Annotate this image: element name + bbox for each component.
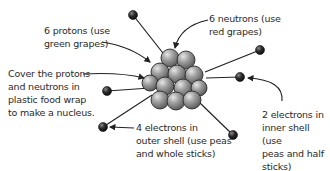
label-protons: 6 protons (use green grapes) [44,24,110,50]
nucleus [142,49,207,110]
label-neutrons: 6 neutrons (use red grapes) [209,12,281,38]
label-nucleus: Cover the protons and neutrons in plasti… [8,67,95,119]
label-inner-shell: 2 electrons in inner shell (use peas and… [262,108,330,171]
label-outer-shell: 4 electrons in outer shell (use peas and… [136,121,231,160]
